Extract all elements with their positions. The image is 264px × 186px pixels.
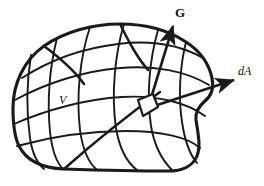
volume-label: V xyxy=(59,94,66,106)
area-element-label: dA xyxy=(238,65,251,77)
figure-container: G dA V xyxy=(0,0,264,186)
vector-field-surface-diagram xyxy=(0,0,264,186)
vector-field-label: G xyxy=(175,6,185,19)
